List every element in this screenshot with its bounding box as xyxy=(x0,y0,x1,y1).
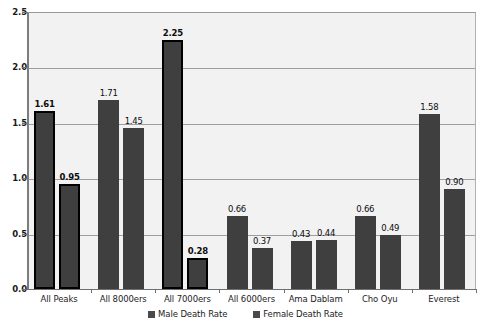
x-axis-tick-mark xyxy=(476,289,477,293)
x-axis-baseline xyxy=(27,289,477,290)
legend-swatch-male-icon xyxy=(148,311,155,318)
x-axis-tick-mark xyxy=(348,289,349,293)
bar[interactable] xyxy=(419,114,440,289)
x-axis-category-label: All 6000ers xyxy=(228,294,275,304)
legend-item-female[interactable]: Female Death Rate xyxy=(253,309,343,319)
bar-value-label: 0.49 xyxy=(374,223,407,233)
bar-value-label: 1.61 xyxy=(28,99,61,109)
legend-item-male[interactable]: Male Death Rate xyxy=(148,309,227,319)
bar-value-label: 2.25 xyxy=(156,28,189,38)
bar[interactable] xyxy=(59,184,80,289)
bar-value-label: 1.45 xyxy=(117,116,150,126)
bar[interactable] xyxy=(444,189,465,289)
bar[interactable] xyxy=(123,128,144,289)
bar-value-label: 0.28 xyxy=(181,246,214,256)
bar[interactable] xyxy=(98,100,119,289)
bar-value-label: 0.95 xyxy=(53,172,86,182)
legend: Male Death Rate Female Death Rate xyxy=(0,309,491,319)
legend-label-female: Female Death Rate xyxy=(263,309,343,319)
y-axis: 0.00.51.01.52.02.5 xyxy=(0,0,27,326)
x-axis-category-label: All 7000ers xyxy=(164,294,211,304)
bar-value-label: 0.44 xyxy=(310,228,343,238)
bar-value-label: 0.66 xyxy=(221,204,254,214)
bar-value-label: 0.37 xyxy=(246,236,279,246)
chart-title-cutoff xyxy=(150,0,370,3)
bar-value-label: 1.58 xyxy=(413,102,446,112)
x-axis-tick-mark xyxy=(219,289,220,293)
bar[interactable] xyxy=(162,40,183,289)
bar[interactable] xyxy=(291,241,312,289)
x-axis-category-label: Cho Oyu xyxy=(362,294,398,304)
x-axis-category-label: Everest xyxy=(428,294,459,304)
bar-value-label: 0.66 xyxy=(349,204,382,214)
legend-swatch-female-icon xyxy=(253,311,260,318)
x-axis-tick-mark xyxy=(284,289,285,293)
bar-chart: 0.00.51.01.52.02.5 1.610.951.711.452.250… xyxy=(0,0,491,326)
bar[interactable] xyxy=(355,216,376,289)
bar-value-label: 1.71 xyxy=(92,88,125,98)
x-axis-tick-mark xyxy=(412,289,413,293)
bar[interactable] xyxy=(380,235,401,289)
bar[interactable] xyxy=(252,248,273,289)
bar-value-label: 0.90 xyxy=(438,177,471,187)
bar[interactable] xyxy=(316,240,337,289)
x-axis-category-label: All Peaks xyxy=(41,294,78,304)
x-axis-category-label: Ama Dablam xyxy=(289,294,343,304)
bar[interactable] xyxy=(227,216,248,289)
legend-label-male: Male Death Rate xyxy=(158,309,227,319)
x-axis-category-label: All 8000ers xyxy=(100,294,147,304)
bar[interactable] xyxy=(34,111,55,289)
x-axis-tick-mark xyxy=(155,289,156,293)
x-axis-tick-mark xyxy=(91,289,92,293)
bars-layer: 1.610.951.711.452.250.280.660.370.430.44… xyxy=(27,12,476,289)
bar[interactable] xyxy=(187,258,208,289)
